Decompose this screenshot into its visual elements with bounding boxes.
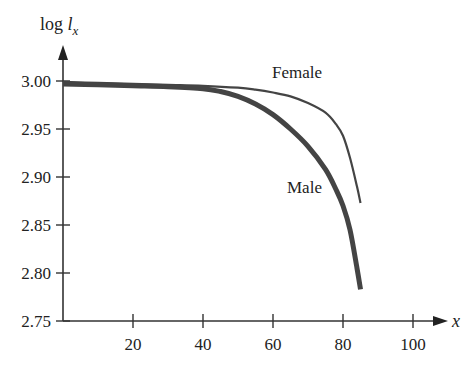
x-tick-label: 60 [265, 335, 282, 354]
x-tick-label: 20 [125, 335, 142, 354]
life-table-chart: log lx x 2.752.802.852.902.953.00 204060… [0, 0, 476, 369]
y-axis-label: log lx [40, 14, 79, 38]
y-tick-label: 2.75 [21, 312, 51, 331]
x-axis-label: x [451, 311, 460, 331]
x-tick-label: 100 [400, 335, 426, 354]
male-series-label: Male [287, 178, 322, 197]
y-tick-label: 3.00 [21, 72, 51, 91]
x-tick-label: 40 [195, 335, 212, 354]
female-series-label: Female [272, 63, 322, 82]
y-tick-label: 2.85 [21, 216, 51, 235]
y-axis-arrow-icon [58, 45, 68, 60]
y-tick-label: 2.90 [21, 168, 51, 187]
y-tick-label: 2.80 [21, 264, 51, 283]
x-axis-arrow-icon [433, 316, 448, 326]
x-tick-label: 80 [335, 335, 352, 354]
x-ticks: 20406080100 [125, 314, 426, 354]
y-tick-label: 2.95 [21, 120, 51, 139]
